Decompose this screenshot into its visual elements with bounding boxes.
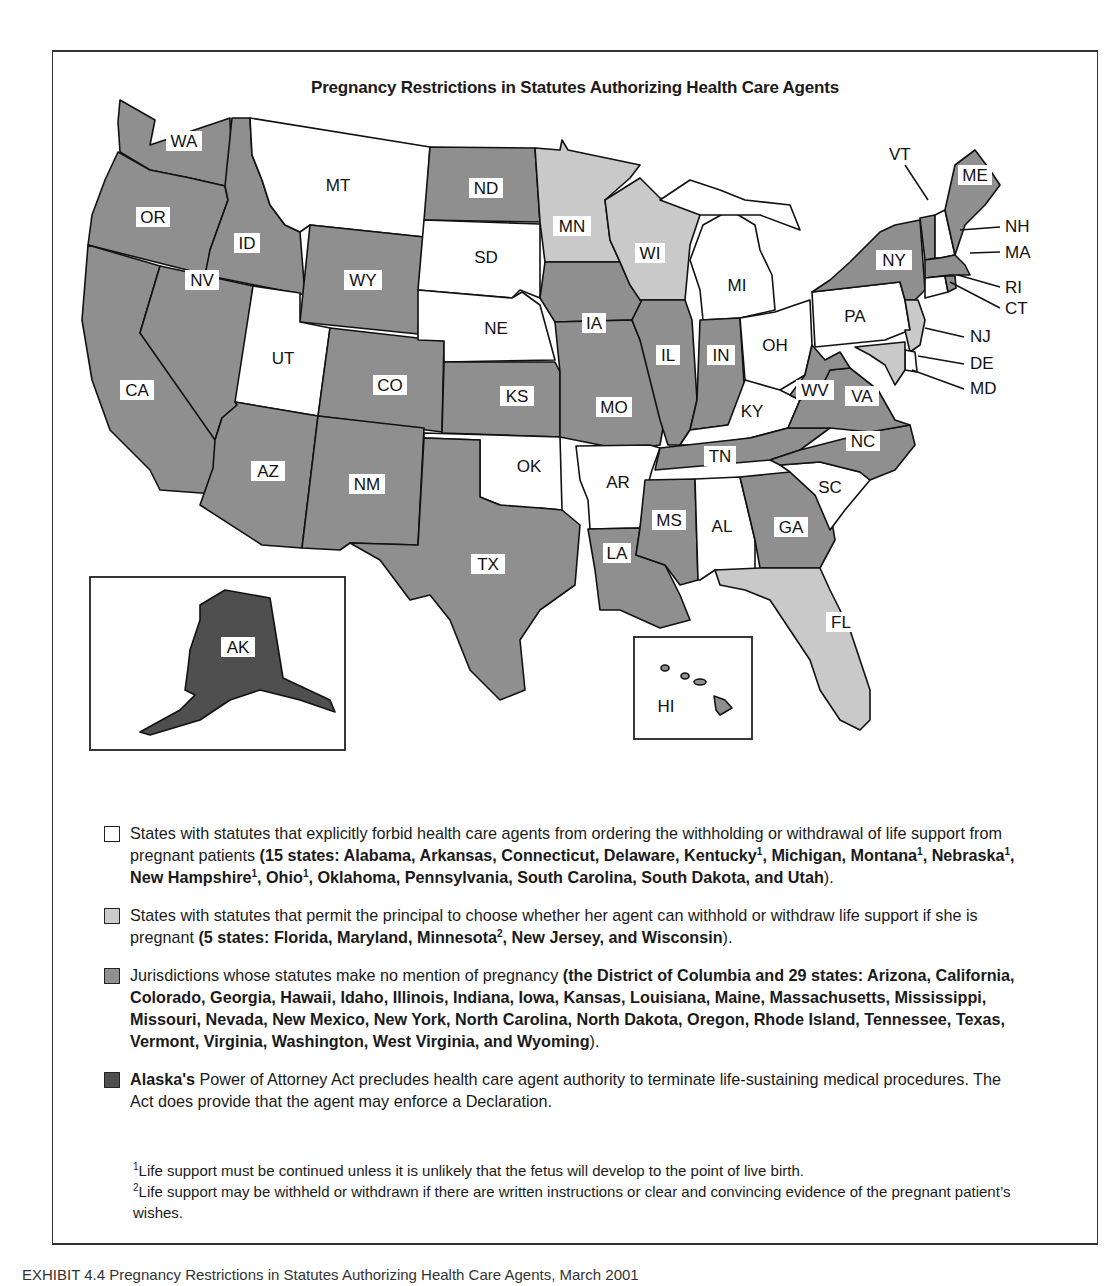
swatch-light-gray bbox=[104, 908, 120, 924]
svg-text:MS: MS bbox=[656, 511, 682, 530]
svg-text:NC: NC bbox=[851, 432, 876, 451]
legend-item-no-mention: Jurisdictions whose statutes make no men… bbox=[104, 964, 1024, 1052]
svg-text:NM: NM bbox=[354, 475, 380, 494]
footnote-2: 2Life support may be withheld or withdra… bbox=[133, 1181, 1033, 1223]
svg-text:WA: WA bbox=[171, 132, 198, 151]
footnote-1: 1Life support must be continued unless i… bbox=[133, 1160, 1033, 1181]
svg-text:HI: HI bbox=[658, 697, 675, 716]
svg-text:SC: SC bbox=[818, 478, 842, 497]
svg-text:MI: MI bbox=[728, 276, 747, 295]
svg-text:NE: NE bbox=[484, 319, 508, 338]
footnotes: 1Life support must be continued unless i… bbox=[133, 1160, 1033, 1223]
svg-text:SD: SD bbox=[474, 248, 498, 267]
svg-text:KY: KY bbox=[741, 402, 764, 421]
legend-item-alaska: Alaska's Power of Attorney Act precludes… bbox=[104, 1068, 1024, 1112]
svg-text:MO: MO bbox=[600, 398, 627, 417]
svg-text:WV: WV bbox=[801, 381, 829, 400]
svg-text:MT: MT bbox=[326, 176, 351, 195]
legend: States with statutes that explicitly for… bbox=[104, 822, 1024, 1128]
svg-text:CO: CO bbox=[377, 376, 403, 395]
svg-text:TX: TX bbox=[477, 555, 499, 574]
us-map: WA OR CA ID NV MT WY UT CO AZ NM ND SD N… bbox=[0, 0, 1119, 820]
svg-text:CT: CT bbox=[1005, 299, 1028, 318]
svg-text:IN: IN bbox=[713, 346, 730, 365]
svg-text:PA: PA bbox=[844, 307, 866, 326]
swatch-mid-gray bbox=[104, 968, 120, 984]
svg-text:ME: ME bbox=[962, 166, 988, 185]
swatch-dark-gray bbox=[104, 1072, 120, 1088]
svg-text:UT: UT bbox=[272, 349, 295, 368]
hawaii-island bbox=[661, 665, 669, 671]
svg-text:IL: IL bbox=[661, 346, 675, 365]
svg-text:GA: GA bbox=[779, 518, 804, 537]
svg-text:NY: NY bbox=[882, 251, 906, 270]
svg-text:OH: OH bbox=[762, 336, 788, 355]
svg-text:WI: WI bbox=[640, 244, 661, 263]
svg-text:MN: MN bbox=[559, 217, 585, 236]
state-MI[interactable] bbox=[690, 210, 775, 320]
svg-text:LA: LA bbox=[607, 544, 628, 563]
svg-text:TN: TN bbox=[709, 447, 732, 466]
svg-text:ND: ND bbox=[474, 179, 499, 198]
legend-item-forbid: States with statutes that explicitly for… bbox=[104, 822, 1024, 888]
svg-text:NJ: NJ bbox=[970, 327, 991, 346]
figure-caption: EXHIBIT 4.4 Pregnancy Restrictions in St… bbox=[22, 1266, 639, 1283]
svg-text:IA: IA bbox=[586, 314, 603, 333]
state-CT bbox=[925, 276, 948, 298]
svg-text:AR: AR bbox=[606, 473, 630, 492]
svg-text:CA: CA bbox=[125, 381, 149, 400]
svg-text:OR: OR bbox=[140, 208, 166, 227]
hawaii-island bbox=[681, 673, 689, 679]
svg-text:AL: AL bbox=[712, 517, 733, 536]
state-MA bbox=[925, 255, 970, 278]
svg-text:FL: FL bbox=[831, 613, 851, 632]
hawaii-island bbox=[694, 679, 706, 685]
svg-text:MA: MA bbox=[1005, 243, 1031, 262]
svg-text:AK: AK bbox=[227, 638, 250, 657]
svg-text:VA: VA bbox=[851, 387, 873, 406]
svg-text:MD: MD bbox=[970, 379, 996, 398]
svg-text:WY: WY bbox=[349, 271, 376, 290]
svg-text:ID: ID bbox=[239, 234, 256, 253]
svg-text:NH: NH bbox=[1005, 217, 1030, 236]
svg-text:RI: RI bbox=[1005, 278, 1022, 297]
swatch-white bbox=[104, 826, 120, 842]
hawaii-inset bbox=[634, 637, 752, 739]
svg-text:NV: NV bbox=[190, 271, 214, 290]
svg-text:VT: VT bbox=[889, 145, 911, 164]
state-DE bbox=[905, 350, 917, 372]
svg-text:OK: OK bbox=[517, 457, 542, 476]
svg-text:AZ: AZ bbox=[257, 462, 279, 481]
legend-item-permit: States with statutes that permit the pri… bbox=[104, 904, 1024, 948]
svg-text:KS: KS bbox=[506, 387, 529, 406]
svg-text:DE: DE bbox=[970, 354, 994, 373]
